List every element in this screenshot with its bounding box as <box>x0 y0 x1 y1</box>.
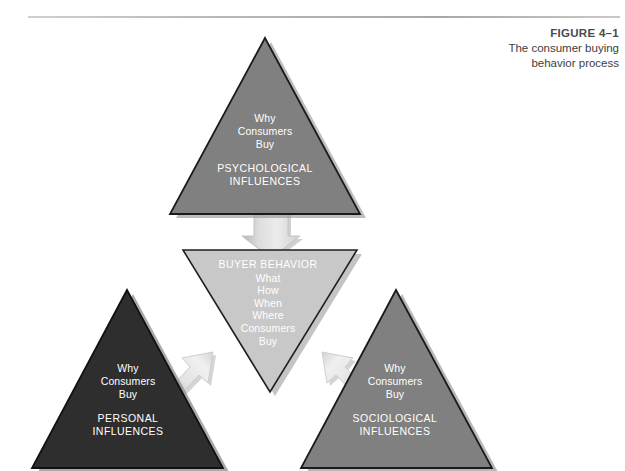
diagram-canvas <box>0 0 625 471</box>
figure-container: FIGURE 4–1 The consumer buying behavior … <box>0 0 625 471</box>
triangle-psychological <box>170 38 366 218</box>
